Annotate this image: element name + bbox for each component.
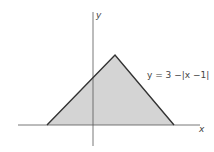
shaded-region: [47, 55, 174, 125]
y-axis-label: y: [95, 10, 102, 20]
x-axis-label: x: [198, 124, 205, 134]
equation-label: y = 3 −|x −1|: [147, 70, 209, 80]
graph-figure: y x y = 3 −|x −1|: [0, 0, 214, 152]
